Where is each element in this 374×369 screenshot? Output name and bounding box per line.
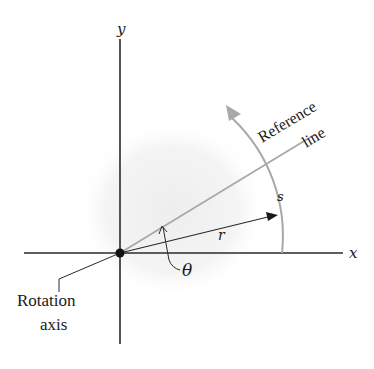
- rotation-axis-label-2: axis: [40, 315, 67, 334]
- rotation-diagram: y x s r θ Reference line Rotation axis: [0, 0, 374, 369]
- y-axis-label: y: [116, 20, 126, 38]
- reference-line-label-2: line: [299, 124, 328, 151]
- rotation-axis-label: Rotation: [17, 291, 76, 310]
- rigid-body-disk: [77, 120, 267, 300]
- arc-length-label: s: [277, 189, 284, 204]
- rotation-axis-point: [116, 249, 125, 258]
- x-axis-label: x: [349, 244, 358, 262]
- angle-theta-label: θ: [182, 260, 192, 280]
- radius-arrowhead: [266, 212, 278, 221]
